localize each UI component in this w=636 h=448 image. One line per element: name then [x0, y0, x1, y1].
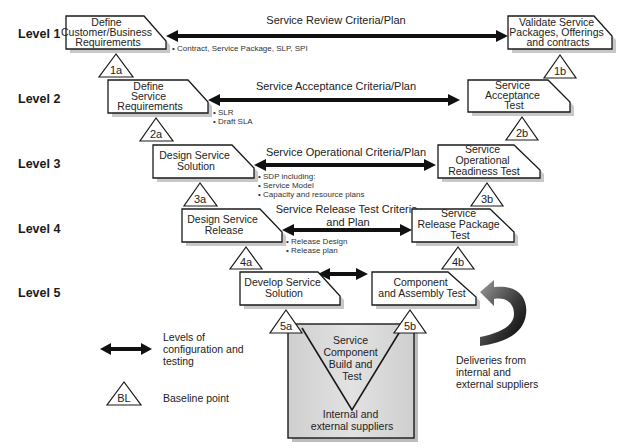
box-component-and-assembly-test: Component and Assembly Test	[372, 272, 480, 309]
svg-text:3b: 3b	[481, 193, 493, 205]
baseline-1a: 1a	[99, 54, 133, 77]
baseline-5b: 5b	[394, 310, 426, 333]
level-1-label: Level 1	[18, 27, 60, 41]
level-2-label: Level 2	[18, 92, 60, 106]
svg-text:4b: 4b	[452, 256, 464, 268]
baseline-4b: 4b	[442, 247, 474, 269]
level-1-criteria: Service Review Criteria/Plan	[266, 14, 405, 26]
baseline-2b: 2b	[506, 117, 538, 140]
level-5-label: Level 5	[18, 286, 60, 300]
left-boxes: Define Customer/Business Requirements De…	[61, 16, 344, 309]
legend-baseline-triangle-icon: BL	[107, 382, 141, 405]
baseline-3a: 3a	[184, 183, 217, 206]
level-1-arrow	[166, 30, 508, 42]
box-service-operational-readiness-test: Service Operational Readiness Test	[438, 143, 544, 182]
baseline-2a: 2a	[140, 118, 173, 141]
level-2-arrow	[208, 94, 460, 106]
baseline-4a: 4a	[230, 247, 262, 269]
level-1-note: • Contract, Service Package, SLP, SPI	[172, 44, 308, 53]
level-4-criteria: Service Release Test Criteria and Plan	[276, 203, 421, 228]
level-4-label: Level 4	[18, 222, 60, 236]
box-define-service-requirements: Define Service Requirements	[108, 80, 212, 117]
level-4-note: • Release Design • Release plan	[286, 237, 350, 255]
service-v-model-diagram: Level 1 Level 2 Level 3 Level 4 Level 5 …	[0, 0, 636, 448]
level-labels: Level 1 Level 2 Level 3 Level 4 Level 5	[18, 27, 60, 300]
deliveries-label: Deliveries from internal and external su…	[456, 354, 538, 390]
service-component-build-box: Service Component Build and Test Interna…	[278, 324, 418, 442]
deliveries-curl-arrow-icon	[480, 280, 526, 346]
box-design-service-release: Design Service Release	[182, 209, 286, 246]
level-5-arrow	[318, 268, 368, 280]
box-validate-service-packages: Validate Service Packages, Offerings and…	[508, 16, 616, 53]
svg-text:4a: 4a	[240, 256, 253, 268]
legend-baseline-label: Baseline point	[163, 392, 229, 404]
svg-text:1b: 1b	[554, 65, 566, 77]
legend-double-arrow-icon	[100, 343, 152, 355]
level-3-note: • SDP including: • Service Model • Capac…	[258, 172, 364, 199]
svg-text:2a: 2a	[150, 128, 163, 140]
level-2-note: • SLR • Draft SLA	[213, 108, 253, 126]
box-design-service-solution: Design Service Solution	[153, 145, 258, 182]
baseline-1b: 1b	[544, 55, 576, 78]
svg-text:5b: 5b	[404, 320, 416, 332]
svg-text:BL: BL	[117, 392, 130, 404]
level-3-criteria: Service Operational Criteria/Plan	[266, 146, 426, 158]
box-define-customer-business-requirements: Define Customer/Business Requirements	[61, 16, 170, 53]
legend-arrow-label: Levels of configuration and testing	[163, 331, 246, 367]
box-service-release-package-test: Service Release Package Test	[412, 207, 518, 246]
baseline-3b: 3b	[471, 183, 503, 206]
baseline-5a: 5a	[270, 310, 302, 333]
svg-text:1a: 1a	[110, 64, 123, 76]
svg-text:5a: 5a	[280, 320, 293, 332]
level-2-criteria: Service Acceptance Criteria/Plan	[256, 80, 416, 92]
box-service-acceptance-test: Service Acceptance Test	[468, 79, 574, 116]
level-3-label: Level 3	[18, 157, 60, 171]
level-3-arrow	[254, 159, 436, 171]
right-boxes: Validate Service Packages, Offerings and…	[372, 16, 616, 309]
svg-text:3a: 3a	[194, 193, 207, 205]
build-box-footer: Internal and external suppliers	[311, 408, 393, 432]
legend: Levels of configuration and testing BL B…	[100, 331, 246, 405]
svg-text:2b: 2b	[516, 127, 528, 139]
